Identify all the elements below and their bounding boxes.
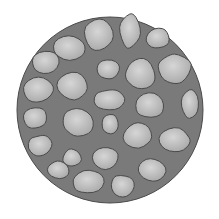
stone	[111, 175, 134, 197]
stone	[23, 108, 46, 128]
stone	[136, 93, 164, 118]
stone-cluster-illustration	[0, 0, 219, 219]
stone	[97, 60, 119, 79]
stone-cluster-graphic	[0, 0, 219, 219]
stone	[102, 114, 118, 134]
stone	[94, 90, 125, 110]
stone	[73, 170, 104, 193]
stone	[32, 51, 59, 73]
